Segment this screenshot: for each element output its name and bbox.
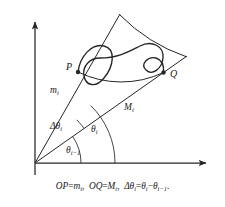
delta-theta-label: Δθi <box>50 122 62 132</box>
arc-inner-through-PQ <box>78 72 164 82</box>
caption-segment-delta: Δθi=θi−θi−1. <box>124 181 169 191</box>
theta-i-minus-1-label: θi−1 <box>66 146 80 156</box>
geometry-diagram <box>0 0 225 207</box>
ray-theta-i <box>35 14 120 163</box>
figure-root: P Q mi Mi Δθi θi θi−1 OP=mi, OQ=Mi, Δθi=… <box>0 0 225 207</box>
point-q-label: Q <box>170 69 177 79</box>
point-p-label: P <box>66 62 72 72</box>
arc-delta-theta <box>77 120 85 129</box>
point-p-dot <box>76 70 80 74</box>
wavy-closed-curve <box>78 44 164 85</box>
point-q-dot <box>161 70 165 74</box>
caption-segment-oq: OQ=Mi, <box>89 181 120 191</box>
coordinate-axes <box>35 22 206 175</box>
radius-min-label: mi <box>50 86 59 96</box>
wavy-curve-path <box>78 44 164 85</box>
figure-caption: OP=mi, OQ=Mi, Δθi=θi−θi−1. <box>0 181 225 191</box>
theta-i-label: θi <box>91 125 98 135</box>
radius-max-label: Mi <box>124 103 134 113</box>
caption-segment-op: OP=mi, <box>56 181 85 191</box>
